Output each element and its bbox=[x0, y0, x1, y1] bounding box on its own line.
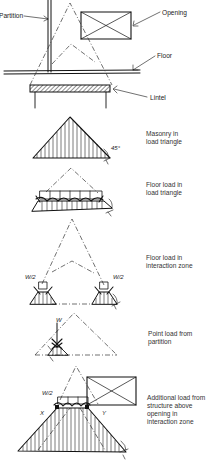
caption-masonry-2: load triangle bbox=[146, 138, 182, 146]
label-leaders bbox=[24, 12, 160, 97]
caption-point-load-1: Point load from bbox=[148, 330, 193, 337]
caption-floor-interaction-2: interaction zone bbox=[146, 262, 193, 269]
caption-additional-4: interaction zone bbox=[147, 418, 194, 425]
opening-box bbox=[81, 12, 131, 39]
load-w2: W/2 bbox=[42, 390, 53, 396]
lintel-load-diagram: Partition Opening Floor Lintel 45° Mason… bbox=[0, 0, 212, 467]
label-lintel: Lintel bbox=[150, 94, 166, 101]
caption-point-load-2: partition bbox=[148, 338, 172, 346]
floor-line bbox=[4, 70, 140, 71]
load-w: W bbox=[56, 317, 63, 323]
marker-x: X bbox=[39, 410, 45, 416]
panel-floor-triangle: Floor load in load triangle bbox=[32, 168, 183, 216]
caption-floor-triangle-2: load triangle bbox=[146, 189, 182, 197]
panel-point-load: W Point load from partition bbox=[35, 313, 193, 361]
caption-additional-3: opening in bbox=[147, 410, 178, 418]
right-support bbox=[92, 282, 120, 309]
caption-floor-interaction-1: Floor load in bbox=[146, 254, 183, 261]
caption-masonry-1: Masonry in bbox=[146, 130, 179, 138]
angle-label: 45° bbox=[111, 145, 121, 151]
marker-y: Y bbox=[102, 410, 107, 416]
caption-floor-triangle-1: Floor load in bbox=[146, 181, 183, 188]
load-w2-left: W/2 bbox=[25, 274, 36, 280]
label-partition: Partition bbox=[0, 12, 24, 19]
caption-additional-1: Additional load from bbox=[147, 394, 206, 401]
elevation-view: Partition Opening Floor Lintel bbox=[0, 0, 187, 108]
panel-masonry: 45° Masonry in load triangle bbox=[33, 117, 182, 164]
left-support bbox=[30, 282, 56, 304]
panel-floor-interaction: W/2 W/2 Floor load in interaction zone bbox=[25, 219, 193, 309]
opening-box-lower bbox=[87, 377, 136, 405]
lintel-beam bbox=[30, 85, 110, 92]
label-floor: Floor bbox=[157, 52, 173, 59]
label-opening: Opening bbox=[162, 9, 187, 17]
caption-additional-2: structure above bbox=[147, 402, 193, 409]
panel-additional-load: W/2 X Y Additional load from structure a… bbox=[18, 366, 206, 459]
load-w2-right: W/2 bbox=[113, 274, 124, 280]
